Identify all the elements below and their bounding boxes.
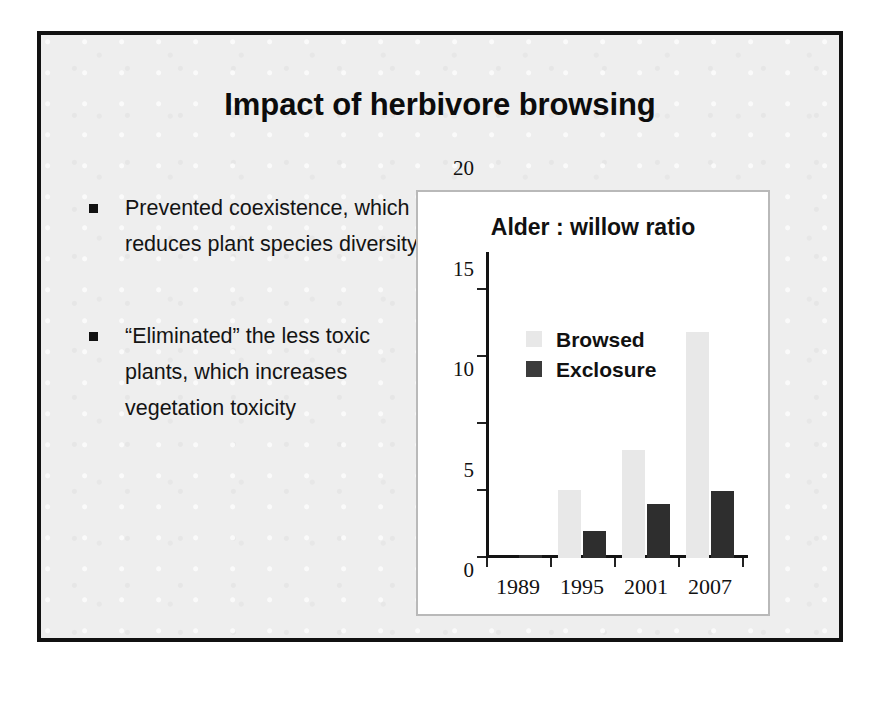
chart-legend: BrowsedExclosure xyxy=(526,324,656,384)
x-axis-tick-label: 1995 xyxy=(560,574,604,600)
x-axis-tick xyxy=(550,558,552,567)
bar-browsed-2001 xyxy=(622,450,645,559)
y-axis-tick xyxy=(477,355,486,357)
bar-exclosure-2001 xyxy=(647,504,670,558)
legend-item: Browsed xyxy=(526,324,656,354)
legend-swatch-icon xyxy=(526,331,542,347)
y-axis-tick-label: 20 xyxy=(453,156,474,424)
list-item: “Eliminated” the less toxic plants, whic… xyxy=(89,318,419,426)
bullet-list: Prevented coexistence, which reduces pla… xyxy=(89,190,419,482)
legend-item: Exclosure xyxy=(526,354,656,384)
square-bullet-icon xyxy=(89,332,98,341)
bar-exclosure-1989 xyxy=(519,555,542,558)
bullet-text: “Eliminated” the less toxic plants, whic… xyxy=(125,324,370,420)
chart-panel: Alder : willow ratio 05101520 1989199520… xyxy=(416,190,770,616)
bar-exclosure-2007 xyxy=(711,491,734,558)
x-axis-tick xyxy=(742,558,744,567)
legend-label: Exclosure xyxy=(556,359,656,380)
x-axis-tick xyxy=(614,558,616,567)
slide-canvas: Impact of herbivore browsing Prevented c… xyxy=(37,31,843,642)
bar-exclosure-1995 xyxy=(583,531,606,558)
square-bullet-icon xyxy=(89,204,98,213)
y-axis-tick xyxy=(477,556,486,558)
x-axis-tick xyxy=(486,558,488,567)
x-axis-tick-label: 2007 xyxy=(688,574,732,600)
bar-browsed-2007 xyxy=(686,332,709,558)
legend-label: Browsed xyxy=(556,329,645,350)
list-item: Prevented coexistence, which reduces pla… xyxy=(89,190,419,262)
bullet-text: Prevented coexistence, which reduces pla… xyxy=(125,196,418,256)
x-axis-tick-label: 2001 xyxy=(624,574,668,600)
bar-browsed-1995 xyxy=(558,490,581,558)
y-axis-tick xyxy=(477,288,486,290)
y-axis-tick xyxy=(477,422,486,424)
y-axis xyxy=(486,252,489,558)
x-axis-tick-label: 1989 xyxy=(496,574,540,600)
page-title: Impact of herbivore browsing xyxy=(41,87,839,123)
legend-swatch-icon xyxy=(526,361,542,377)
plot-area: 05101520 1989199520012007 xyxy=(486,270,742,558)
y-axis-tick xyxy=(477,489,486,491)
x-axis-tick xyxy=(678,558,680,567)
